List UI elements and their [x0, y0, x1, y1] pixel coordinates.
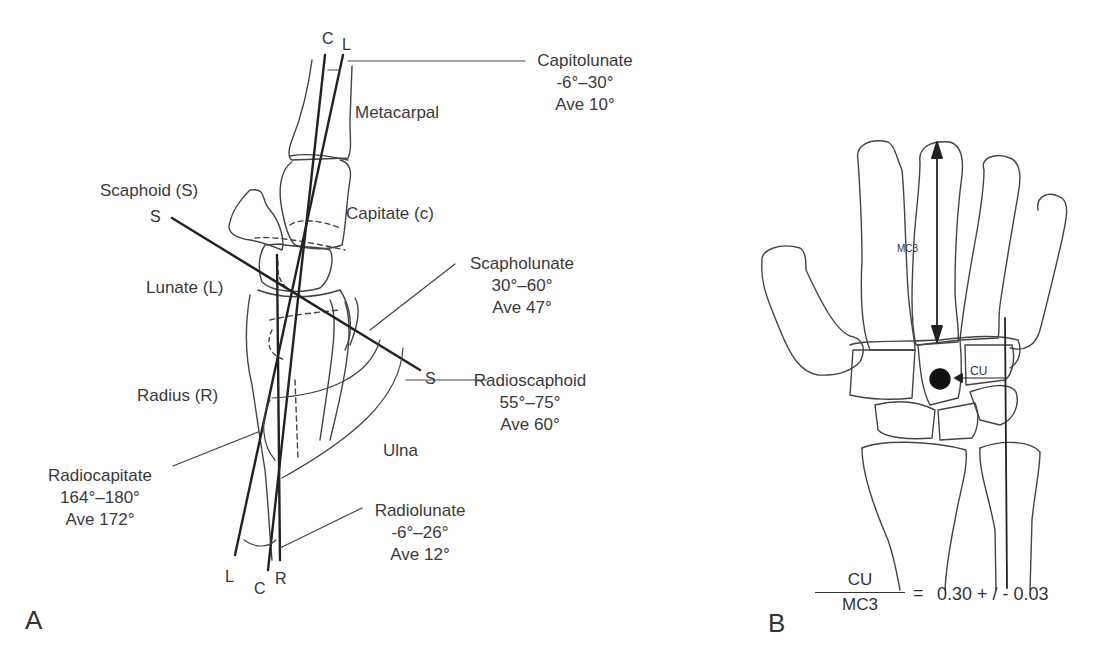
- label-capitate: Capitate (c): [346, 203, 434, 225]
- axis-label-bottom-l: L: [225, 568, 234, 586]
- hand-outline: [762, 141, 1067, 590]
- callout-radiocapitate: Radiocapitate 164°–180° Ave 172°: [25, 465, 175, 531]
- equals-sign: =: [913, 583, 924, 604]
- axis-label-top-c: C: [322, 30, 334, 48]
- angle-name: Radiocapitate: [25, 465, 175, 487]
- callout-capitolunate: Capitolunate -6°–30° Ave 10°: [520, 50, 650, 116]
- label-lunate: Lunate (L): [146, 277, 224, 299]
- capitate-head-marker: [930, 369, 950, 389]
- axis-label-bottom-c: C: [254, 580, 266, 598]
- radius-outline: [246, 295, 272, 560]
- panel-label-b: B: [768, 608, 785, 639]
- angle-average: Ave 47°: [452, 297, 592, 319]
- angle-range: -6°–30°: [520, 72, 650, 94]
- angle-average: Ave 172°: [25, 509, 175, 531]
- angle-average: Ave 10°: [520, 94, 650, 116]
- lunate-axis: [235, 55, 343, 555]
- lunate-outline: [259, 244, 332, 291]
- ulnar-reference-line: [1005, 318, 1007, 588]
- axis-label-bottom-r: R: [275, 570, 287, 588]
- angle-average: Ave 60°: [455, 414, 605, 436]
- radius-axis: [277, 255, 280, 560]
- angle-name: Scapholunate: [452, 253, 592, 275]
- panel-label-a: A: [25, 605, 42, 636]
- fraction-numerator: CU: [815, 570, 905, 590]
- label-scaphoid: Scaphoid (S): [100, 180, 198, 202]
- label-mc3: MC3: [897, 243, 918, 254]
- angle-range: 55°–75°: [455, 392, 605, 414]
- label-metacarpal: Metacarpal: [355, 102, 439, 124]
- angle-name: Radiolunate: [355, 500, 485, 522]
- callout-radioscaphoid: Radioscaphoid 55°–75° Ave 60°: [455, 370, 605, 436]
- fraction-denominator: MC3: [815, 595, 905, 615]
- angle-average: Ave 12°: [355, 544, 485, 566]
- angle-range: 30°–60°: [452, 275, 592, 297]
- callout-scapholunate: Scapholunate 30°–60° Ave 47°: [452, 253, 592, 319]
- scaphoid-outline: [229, 190, 283, 250]
- angle-name: Capitolunate: [520, 50, 650, 72]
- label-ulna: Ulna: [383, 440, 418, 462]
- metacarpal-outline: [289, 60, 352, 160]
- capitate-outline: [280, 160, 350, 249]
- axis-label-top-l: L: [342, 36, 351, 54]
- ratio-fraction: CU MC3: [815, 570, 905, 615]
- fraction-bar: [815, 592, 905, 593]
- axis-label-scaphoid-bottom: S: [425, 370, 436, 388]
- callout-radiolunate: Radiolunate -6°–26° Ave 12°: [355, 500, 485, 566]
- label-radius: Radius (R): [137, 385, 218, 407]
- angle-range: -6°–26°: [355, 522, 485, 544]
- label-cu: CU: [970, 364, 987, 378]
- angle-range: 164°–180°: [25, 487, 175, 509]
- axis-label-scaphoid-top: S: [150, 208, 161, 226]
- angle-name: Radioscaphoid: [455, 370, 605, 392]
- ratio-value: 0.30 + / - 0.03: [937, 584, 1049, 605]
